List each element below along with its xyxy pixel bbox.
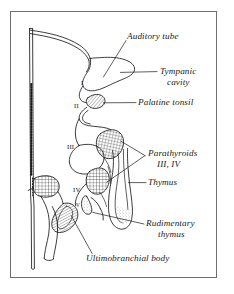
rudimentary-thymus (81, 196, 100, 215)
label-parathyroids-line2: III, IV (157, 159, 180, 170)
parathyroid-IV (86, 168, 109, 194)
auditory-tube-lobe (83, 57, 135, 91)
leader-tympanic-cavity (120, 72, 157, 73)
label-rudimentary-thymus-line2: thymus (158, 229, 185, 240)
label-ultimobranchial-body: Ultimobranchial body (86, 253, 169, 264)
label-rudimentary-thymus-line1: Rudimentary (146, 218, 195, 229)
pouch-numeral-IV: IV (73, 186, 80, 193)
pouch-numeral-V: V (76, 202, 80, 208)
figure-root: Auditory tube Tympanic cavity Palatine t… (0, 0, 234, 294)
parathyroid-III (96, 130, 123, 159)
label-tympanic-cavity-line1: Tympanic (160, 66, 196, 77)
label-parathyroids-line1: Parathyroids (148, 148, 197, 159)
pouch-numeral-II: II (74, 102, 79, 109)
pharynx-outline (30, 30, 90, 60)
label-thymus: Thymus (148, 177, 177, 188)
leader-ultimobranchial-body (71, 216, 92, 254)
anatomical-illustration (0, 0, 234, 294)
pouch-numeral-III: III (67, 143, 74, 150)
pouch-numeral-I: I (81, 79, 83, 86)
neural-axis-line (30, 29, 35, 270)
ultimobranchial (52, 203, 78, 232)
label-palatine-tonsil: Palatine tonsil (138, 97, 193, 108)
palatine-tonsil-mass (86, 94, 105, 108)
label-auditory-tube: Auditory tube (127, 31, 179, 42)
leader-parathyroid-upper (121, 141, 145, 155)
label-tympanic-cavity-line2: cavity (167, 77, 190, 88)
